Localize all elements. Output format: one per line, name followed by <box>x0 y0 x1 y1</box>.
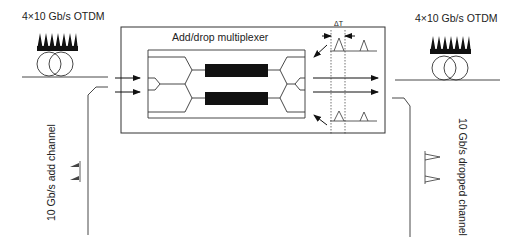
add-channel-label: 10 Gb/s add channel <box>45 124 57 221</box>
input-pulse-train-icon <box>37 33 78 51</box>
add-channel-path <box>88 87 108 130</box>
output-pulse-train-icon <box>430 36 471 54</box>
delta-t-label: ΔT <box>334 20 343 27</box>
clock-pulses-bottom <box>330 111 377 121</box>
clock-pulses-top <box>330 38 377 51</box>
input-fiber-spool-icon <box>37 52 73 76</box>
multiplexer-title: Add/drop multiplexer <box>172 31 268 43</box>
waveguide-circuit <box>148 50 305 118</box>
add-channel-pulses-icon <box>70 161 80 182</box>
output-otdm-label: 4×10 Gb/s OTDM <box>415 12 498 24</box>
output-fiber-spool-icon <box>432 56 468 80</box>
phase-element-bottom <box>205 92 268 105</box>
dropped-channel-label: 10 Gb/s dropped channel <box>457 118 469 236</box>
input-otdm-label: 4×10 Gb/s OTDM <box>22 10 105 22</box>
dropped-channel-pulses-icon <box>425 151 440 184</box>
drop-channel-path <box>392 98 410 237</box>
phase-element-top <box>205 64 268 77</box>
